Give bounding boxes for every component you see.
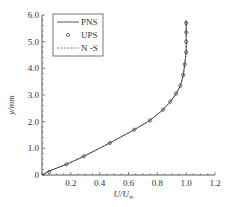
y-tick-label: 0 bbox=[35, 170, 40, 180]
y-tick-label: 3.0 bbox=[28, 90, 40, 100]
legend: PNSUPSN -S bbox=[53, 14, 103, 56]
x-tick-label: 0.2 bbox=[65, 178, 76, 188]
x-tick-label: 1.0 bbox=[181, 178, 193, 188]
y-tick-label: 1.0 bbox=[28, 143, 40, 153]
x-tick-label: 1.2 bbox=[209, 178, 220, 188]
x-axis-title: U/U∞ bbox=[114, 189, 135, 200]
legend-label: UPS bbox=[81, 30, 98, 40]
y-tick-label: 4.0 bbox=[28, 63, 40, 73]
x-tick-label: 0.4 bbox=[94, 178, 106, 188]
y-axis-title: y/mm bbox=[6, 95, 16, 116]
y-tick-label: 2.0 bbox=[28, 117, 40, 127]
x-tick-label: 0.6 bbox=[123, 178, 135, 188]
legend-label: N -S bbox=[81, 43, 98, 53]
x-tick-label: 0.8 bbox=[152, 178, 164, 188]
y-tick-label: 6.0 bbox=[28, 10, 40, 20]
boundary-layer-velocity-profile-chart: 0.20.40.60.81.01.201.02.03.04.05.06.0 PN… bbox=[0, 0, 234, 207]
x-axis-title-subscript: ∞ bbox=[129, 194, 134, 200]
y-tick-label: 5.0 bbox=[28, 37, 40, 47]
legend-label: PNS bbox=[81, 17, 98, 27]
